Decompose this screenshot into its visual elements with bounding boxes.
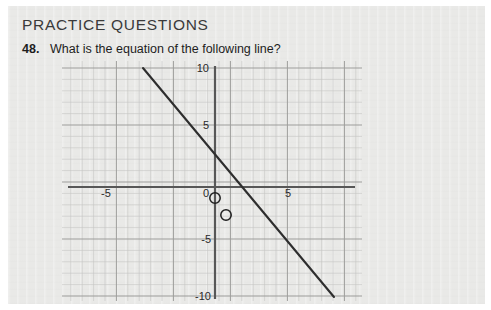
x-label-neg5: -5 <box>101 187 111 199</box>
major-gridlines <box>62 61 362 301</box>
y-label-5: 5 <box>203 119 209 131</box>
page-title: PRACTICE QUESTIONS <box>22 16 209 34</box>
y-label-neg10: -10 <box>195 290 211 301</box>
minor-gridlines <box>62 61 362 301</box>
x-label-5: 5 <box>285 187 291 199</box>
y-label-10: 10 <box>197 62 209 74</box>
origin-label: 0 <box>203 187 209 199</box>
y-label-neg5: -5 <box>201 233 211 245</box>
coordinate-graph: 10 5 0 -5 -10 -5 5 <box>62 61 362 301</box>
question-row: 48. What is the equation of the followin… <box>22 42 281 56</box>
question-number: 48. <box>22 42 50 56</box>
marked-point-second <box>221 210 231 220</box>
graph-svg: 10 5 0 -5 -10 -5 5 <box>62 61 362 301</box>
worksheet-page: PRACTICE QUESTIONS 48. What is the equat… <box>8 6 485 304</box>
question-text: What is the equation of the following li… <box>50 42 281 56</box>
